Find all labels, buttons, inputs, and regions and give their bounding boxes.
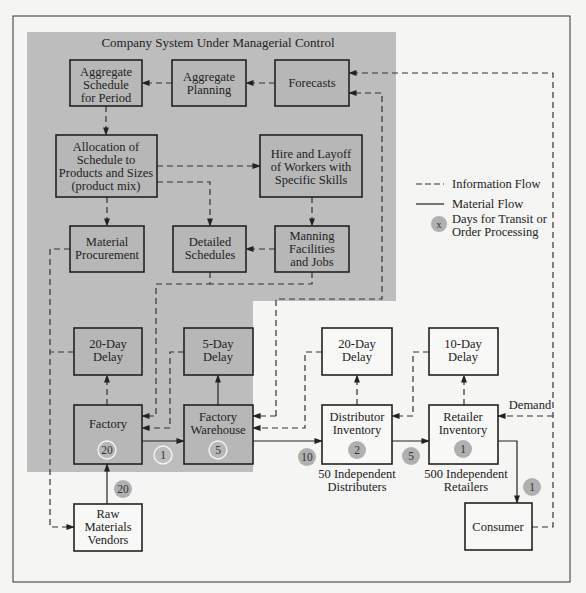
svg-text:Aggregate: Aggregate: [80, 65, 133, 79]
day-marker-warehouse: 5: [209, 441, 227, 459]
box-retailer-delay[interactable]: 10-Day Delay: [429, 328, 498, 375]
svg-text:20: 20: [101, 444, 113, 456]
retailers-caption: 500 Independent: [424, 467, 508, 481]
svg-text:Materials: Materials: [84, 520, 131, 534]
box-warehouse-delay[interactable]: 5-Day Delay: [184, 328, 253, 375]
retailers-caption-2: Retailers: [444, 480, 489, 494]
svg-text:2: 2: [354, 444, 360, 456]
svg-text:Forecasts: Forecasts: [288, 76, 335, 90]
svg-text:Procurement: Procurement: [75, 248, 139, 262]
svg-text:for Period: for Period: [81, 91, 132, 105]
svg-text:Schedule to: Schedule to: [77, 153, 136, 167]
box-aggregate-planning[interactable]: Aggregate Planning: [172, 60, 246, 106]
svg-text:Vendors: Vendors: [88, 533, 129, 547]
svg-text:20: 20: [117, 483, 129, 495]
supply-chain-diagram: Company System Under Managerial Control: [0, 0, 586, 593]
box-consumer[interactable]: Consumer: [465, 503, 532, 550]
svg-text:Factory: Factory: [89, 417, 128, 431]
svg-text:1: 1: [160, 449, 166, 461]
svg-text:Consumer: Consumer: [472, 520, 524, 534]
svg-text:Allocation of: Allocation of: [73, 140, 140, 154]
box-manning[interactable]: Manning Facilities and Jobs: [275, 226, 349, 272]
box-detailed-schedules[interactable]: Detailed Schedules: [173, 226, 246, 272]
svg-text:1: 1: [460, 443, 466, 455]
svg-text:Raw: Raw: [97, 507, 120, 521]
region-title: Company System Under Managerial Control: [101, 35, 335, 50]
svg-text:1: 1: [529, 481, 535, 493]
svg-text:Schedule: Schedule: [83, 78, 129, 92]
svg-text:Delay: Delay: [203, 350, 234, 364]
svg-text:Material: Material: [86, 235, 129, 249]
svg-text:5-Day: 5-Day: [202, 337, 234, 351]
legend-information-flow: Information Flow: [452, 177, 541, 191]
box-allocation[interactable]: Allocation of Schedule to Products and S…: [56, 135, 157, 197]
box-material-procurement[interactable]: Material Procurement: [70, 226, 144, 272]
svg-text:Schedules: Schedules: [185, 248, 236, 262]
svg-text:Distributor: Distributor: [330, 410, 386, 424]
box-distributor-delay[interactable]: 20-Day Delay: [322, 328, 392, 375]
demand-label: Demand: [509, 398, 552, 412]
day-marker-distributor: 2: [348, 441, 366, 459]
svg-text:Warehouse: Warehouse: [190, 423, 246, 437]
day-marker-retailer-to-consumer: 1: [523, 478, 541, 496]
svg-text:Aggregate: Aggregate: [183, 70, 236, 84]
day-marker-factory: 20: [98, 441, 116, 459]
box-hire-layoff[interactable]: Hire and Layoff of Workers with Specific…: [260, 135, 362, 197]
svg-text:Delay: Delay: [93, 350, 124, 364]
day-marker-warehouse-to-distributor: 10: [298, 448, 316, 466]
svg-text:Inventory: Inventory: [333, 423, 382, 437]
box-factory-delay[interactable]: 20-Day Delay: [74, 328, 142, 375]
svg-text:of Workers with: of Workers with: [271, 160, 352, 174]
day-marker-factory-to-warehouse: 1: [154, 446, 172, 464]
svg-text:Manning: Manning: [289, 229, 335, 243]
svg-text:Factory: Factory: [199, 410, 238, 424]
svg-text:(product mix): (product mix): [71, 179, 140, 193]
day-marker-distributor-to-retailer: 5: [402, 447, 420, 465]
day-marker-retailer: 1: [454, 440, 472, 458]
distributors-caption-2: Distributers: [327, 480, 386, 494]
svg-text:Planning: Planning: [187, 83, 232, 97]
svg-text:Detailed: Detailed: [189, 235, 232, 249]
svg-text:5: 5: [408, 450, 414, 462]
svg-text:Specific Skills: Specific Skills: [275, 173, 348, 187]
svg-text:Delay: Delay: [342, 350, 373, 364]
legend-days-label-2: Order Processing: [452, 225, 539, 239]
svg-text:and Jobs: and Jobs: [290, 255, 334, 269]
svg-text:10-Day: 10-Day: [444, 337, 482, 351]
svg-text:Hire and Layoff: Hire and Layoff: [271, 147, 352, 161]
svg-text:Products and Sizes: Products and Sizes: [59, 166, 154, 180]
legend-days-label: Days for Transit or: [452, 212, 548, 226]
svg-text:20-Day: 20-Day: [338, 337, 376, 351]
svg-text:Delay: Delay: [448, 350, 479, 364]
box-aggregate-schedule[interactable]: Aggregate Schedule for Period: [70, 60, 142, 106]
day-marker-vendors-to-factory: 20: [114, 480, 132, 498]
box-forecasts[interactable]: Forecasts: [275, 60, 349, 106]
svg-text:Inventory: Inventory: [439, 423, 488, 437]
distributors-caption: 50 Independent: [318, 467, 396, 481]
svg-text:20-Day: 20-Day: [89, 337, 127, 351]
svg-text:x: x: [437, 219, 442, 230]
svg-text:Retailer: Retailer: [443, 410, 483, 424]
svg-text:Facilities: Facilities: [289, 242, 335, 256]
svg-text:10: 10: [301, 451, 313, 463]
legend-material-flow: Material Flow: [452, 197, 523, 211]
box-raw-materials-vendors[interactable]: Raw Materials Vendors: [74, 504, 142, 551]
svg-text:5: 5: [215, 444, 221, 456]
